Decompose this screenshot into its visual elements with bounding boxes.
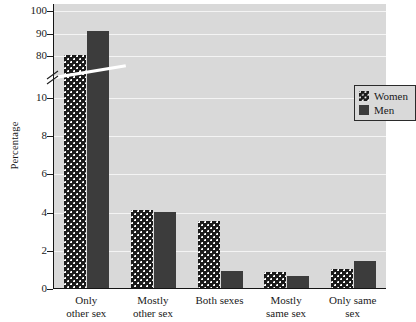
bar-men-only-same-sex: [354, 261, 376, 288]
y-tick-mark-8: [47, 136, 53, 137]
y-tick-mark-10: [47, 98, 53, 99]
y-axis-break-icon: [46, 66, 60, 88]
legend-label-men: Men: [374, 105, 394, 116]
y-tick-label-4: 4: [1, 207, 47, 218]
bar-women-only-other-sex: [64, 55, 86, 288]
bar-men-mostly-other-sex: [154, 212, 176, 288]
y-tick-mark-0: [47, 289, 53, 290]
y-tick-label-10: 10: [1, 92, 47, 103]
y-tick-mark-80: [47, 56, 53, 57]
y-tick-mark-6: [47, 174, 53, 175]
bar-men-both-sexes: [221, 271, 243, 288]
y-axis-tick-labels: 02468108090100: [0, 0, 47, 300]
plot-area: Women Men: [53, 4, 386, 289]
bar-men-only-other-sex: [87, 31, 109, 288]
y-tick-label-100: 100: [1, 5, 47, 16]
y-tick-label-6: 6: [1, 168, 47, 179]
y-tick-mark-90: [47, 34, 53, 35]
bar-men-mostly-same-sex: [287, 276, 309, 288]
y-tick-mark-2: [47, 251, 53, 252]
legend-label-women: Women: [374, 91, 408, 102]
legend-swatch-women-icon: [359, 91, 369, 101]
bar-women-mostly-same-sex: [264, 272, 286, 288]
y-tick-mark-100: [47, 11, 53, 12]
bar-women-only-same-sex: [331, 269, 353, 288]
y-tick-label-2: 2: [1, 245, 47, 256]
x-tick-label-only-same-sex: Only samesex: [308, 294, 398, 319]
y-tick-label-90: 90: [1, 28, 47, 39]
y-tick-label-8: 8: [1, 130, 47, 141]
legend-swatch-men-icon: [359, 105, 369, 115]
legend-item-women: Women: [359, 89, 408, 103]
x-axis-tick-labels: Onlyother sexMostlyother sexBoth sexesMo…: [53, 292, 386, 322]
y-tick-mark-4: [47, 213, 53, 214]
legend: Women Men: [354, 85, 416, 121]
bar-women-mostly-other-sex: [131, 210, 153, 288]
legend-item-men: Men: [359, 103, 408, 117]
y-tick-label-0: 0: [1, 283, 47, 294]
y-tick-label-80: 80: [1, 50, 47, 61]
bar-women-both-sexes: [198, 221, 220, 288]
gridline-100: [54, 11, 386, 12]
